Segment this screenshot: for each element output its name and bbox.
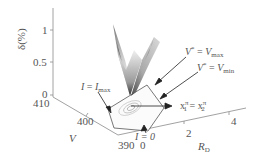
x2-sub: 2 (201, 105, 205, 113)
z-tick-0-5: 0.5 (33, 57, 47, 68)
z-axis-label: δ(%) (16, 28, 27, 50)
i-max-sub: max (98, 86, 110, 94)
error-surface (113, 24, 160, 96)
z-tick-1: 1 (42, 25, 48, 36)
v-min-eq: = (207, 62, 218, 73)
v-tick-390: 390 (118, 140, 135, 151)
plot-canvas (0, 0, 263, 159)
v-min-sub: min (223, 67, 234, 75)
rd-axis-label: RD (198, 141, 210, 154)
annotation-v-max: V* = Vmax (185, 46, 223, 59)
annotation-x-equal: xπ1 = xπ2 (180, 100, 205, 113)
v-tick-400: 400 (77, 116, 94, 127)
v-tick-410: 410 (33, 98, 50, 109)
v-max-sub: max (211, 51, 223, 59)
rd-label-sub: D (205, 146, 210, 154)
annotation-i-max: I = Imax (81, 82, 110, 94)
v-axis-label: V (69, 133, 76, 144)
x-eq-sign: = (187, 100, 198, 111)
rd-tick-2: 2 (186, 128, 192, 139)
annotation-v-min: V* = Vmin (197, 62, 234, 75)
rd-label-main: R (198, 140, 205, 152)
v-max-eq: = (195, 46, 206, 57)
surface-plot-figure: δ(%) 1 0.5 0 410 400 390 V 0 2 4 RD I = … (0, 0, 263, 159)
i-max-eq: = (84, 81, 95, 92)
rd-tick-4: 4 (231, 116, 237, 127)
annotation-i-zero: I = 0 (135, 132, 155, 142)
z-axis (50, 8, 53, 97)
